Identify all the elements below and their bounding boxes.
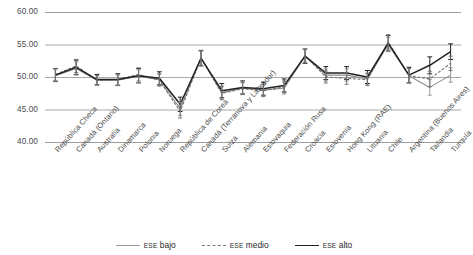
chart-legend: ESE bajoESE medioESE alto bbox=[0, 235, 468, 255]
y-axis-tick-label: 50.00 bbox=[2, 72, 38, 81]
legend-label: ESE bajo bbox=[144, 240, 176, 250]
legend-swatch-line bbox=[295, 245, 319, 246]
legend-item: ESE bajo bbox=[116, 240, 176, 250]
y-axis-tick-label: 55.00 bbox=[2, 40, 38, 49]
legend-item: ESE alto bbox=[295, 240, 353, 250]
y-axis-tick-label: 45.00 bbox=[2, 105, 38, 114]
legend-item: ESE medio bbox=[202, 240, 269, 250]
series-line-ese-medio bbox=[55, 42, 450, 112]
y-axis-tick-label: 40.00 bbox=[2, 137, 38, 146]
error-bar bbox=[303, 49, 307, 62]
legend-swatch-line bbox=[202, 245, 226, 246]
y-axis-tick-label: 60.00 bbox=[2, 7, 38, 16]
legend-label: ESE alto bbox=[323, 240, 353, 250]
series-line-ese-bajo bbox=[55, 45, 450, 109]
error-bar bbox=[449, 56, 453, 70]
legend-label-prefix: ESE bbox=[144, 242, 158, 249]
series-line-ese-alto bbox=[55, 43, 450, 104]
legend-label-prefix: ESE bbox=[230, 242, 244, 249]
legend-swatch-line bbox=[116, 245, 140, 246]
error-bar bbox=[199, 51, 203, 65]
legend-label-prefix: ESE bbox=[323, 242, 337, 249]
legend-label: ESE medio bbox=[230, 240, 269, 250]
